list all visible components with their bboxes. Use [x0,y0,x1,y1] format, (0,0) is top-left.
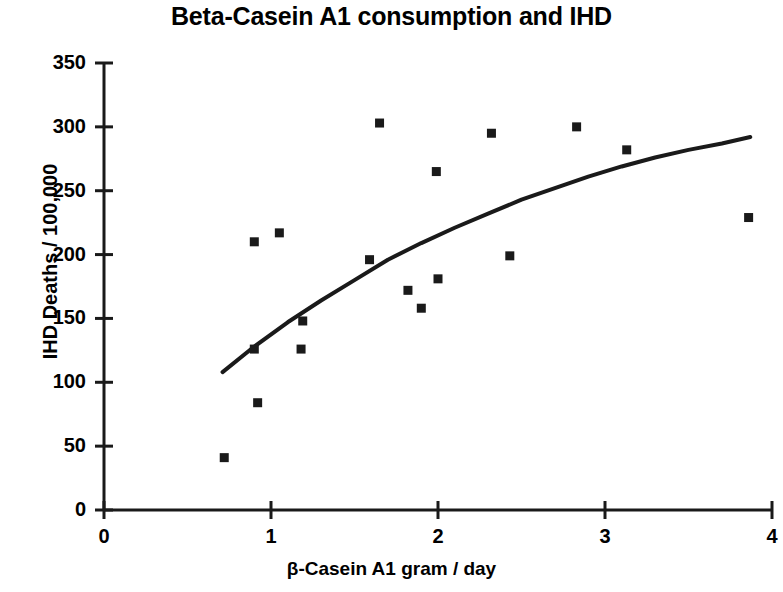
x-axis-tick-label: 0 [84,526,124,546]
x-axis-tick-label: 1 [251,526,291,546]
data-point-marker [434,274,443,283]
data-point-marker [572,122,581,131]
x-axis-tick-label: 4 [752,526,783,546]
data-point-marker [403,286,412,295]
data-point-marker [505,251,514,260]
y-axis-tick-label: 200 [16,244,86,264]
data-point-marker [432,167,441,176]
y-axis-tick-label: 150 [16,307,86,327]
trend-line-path [223,137,751,372]
data-point-marker [220,453,229,462]
data-point-marker [253,398,262,407]
data-points [220,119,753,463]
plot-area [0,0,783,592]
x-axis-tick-label: 3 [585,526,625,546]
data-point-marker [298,316,307,325]
y-axis-tick-label: 100 [16,371,86,391]
y-axis-tick-label: 350 [16,52,86,72]
data-point-marker [417,304,426,313]
data-point-marker [375,119,384,128]
data-point-marker [365,255,374,264]
data-point-marker [250,345,259,354]
data-point-marker [487,129,496,138]
trend-line [223,137,751,372]
chart-container: Beta-Casein A1 consumption and IHD IHD D… [0,0,783,592]
y-axis-tick-label: 250 [16,180,86,200]
y-axis-tick-label: 50 [16,435,86,455]
data-point-marker [275,228,284,237]
data-point-marker [744,213,753,222]
data-point-marker [622,145,631,154]
y-axis-tick-label: 300 [16,116,86,136]
x-axis-tick-label: 2 [418,526,458,546]
data-point-marker [297,345,306,354]
axes [104,63,772,510]
data-point-marker [250,237,259,246]
y-axis-tick-label: 0 [16,499,86,519]
